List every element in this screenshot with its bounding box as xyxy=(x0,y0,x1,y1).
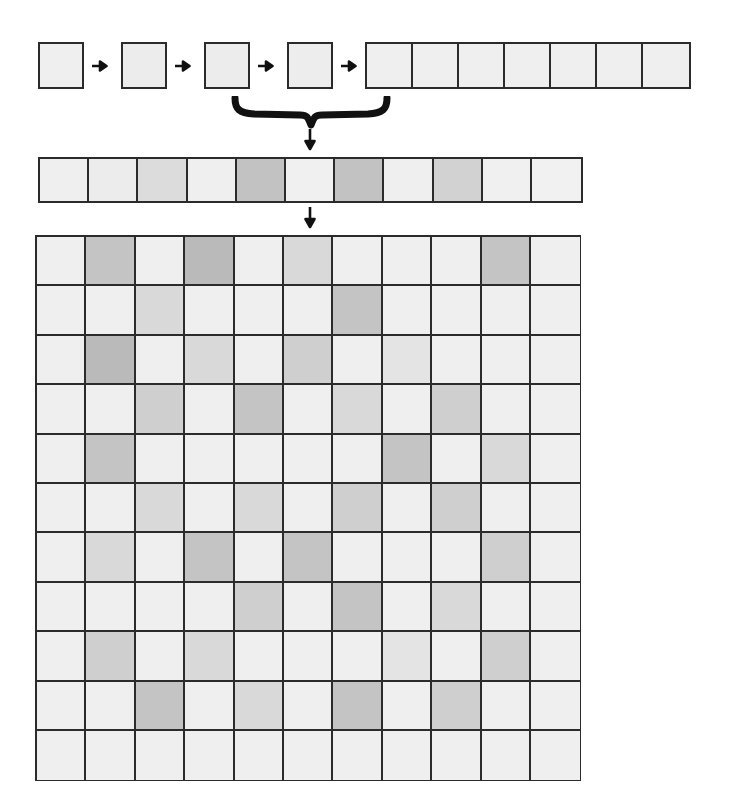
grid-cell xyxy=(185,286,234,335)
grid-cell xyxy=(531,435,580,484)
grid-cell xyxy=(235,632,284,681)
grid-cell xyxy=(86,286,135,335)
grid-cell xyxy=(37,533,86,582)
grid-cell xyxy=(284,336,333,385)
grid-cell xyxy=(383,435,432,484)
strip7-cell xyxy=(643,44,689,87)
grid-cell xyxy=(333,583,382,632)
grid-cell xyxy=(482,435,531,484)
grid-cell xyxy=(383,336,432,385)
arrow-right-icon-3 xyxy=(258,59,274,73)
grid-cell xyxy=(284,237,333,286)
grid-cell xyxy=(432,484,481,533)
arrow-right-icon-2 xyxy=(175,59,191,73)
strip7-cell xyxy=(551,44,597,87)
grid-cell xyxy=(235,286,284,335)
grid-cell xyxy=(333,484,382,533)
attention-grid xyxy=(35,235,581,781)
grid-cell xyxy=(383,237,432,286)
grid-cell xyxy=(531,237,580,286)
grid-cell xyxy=(136,385,185,434)
grid-cell xyxy=(136,336,185,385)
grid-cell xyxy=(531,632,580,681)
grid-cell xyxy=(136,237,185,286)
arrow-down-icon-2 xyxy=(303,207,317,229)
grid-cell xyxy=(37,632,86,681)
grid-cell xyxy=(235,533,284,582)
grid-cell xyxy=(383,632,432,681)
strip-cell xyxy=(384,159,433,201)
grid-cell xyxy=(432,533,481,582)
grid-cell xyxy=(531,731,580,780)
grid-cell xyxy=(333,336,382,385)
grid-cell xyxy=(86,385,135,434)
grid-cell xyxy=(333,286,382,335)
grid-cell xyxy=(284,682,333,731)
grid-cell xyxy=(432,682,481,731)
grid-cell xyxy=(86,632,135,681)
grid-cell xyxy=(185,632,234,681)
grid-cell xyxy=(185,237,234,286)
grid-cell xyxy=(531,533,580,582)
grid-cell xyxy=(531,484,580,533)
strip-cell xyxy=(286,159,335,201)
grid-cell xyxy=(37,336,86,385)
diagram-canvas xyxy=(0,0,745,799)
grid-cell xyxy=(333,632,382,681)
grid-cell xyxy=(185,731,234,780)
tile-run-of-seven xyxy=(365,42,691,89)
grid-cell xyxy=(284,731,333,780)
grid-cell xyxy=(531,682,580,731)
grid-cell xyxy=(531,583,580,632)
strip-cell xyxy=(89,159,138,201)
grid-cell xyxy=(432,435,481,484)
grid-cell xyxy=(86,731,135,780)
grid-cell xyxy=(37,286,86,335)
grid-cell xyxy=(482,632,531,681)
grid-cell xyxy=(185,435,234,484)
grid-cell xyxy=(482,237,531,286)
grid-cell xyxy=(531,385,580,434)
strip-cell xyxy=(138,159,187,201)
grid-cell xyxy=(185,583,234,632)
grid-cell xyxy=(136,533,185,582)
grid-cell xyxy=(136,583,185,632)
grid-cell xyxy=(235,682,284,731)
grid-cell xyxy=(136,435,185,484)
grid-cell xyxy=(482,286,531,335)
grid-cell xyxy=(185,484,234,533)
grid-cell xyxy=(284,583,333,632)
grid-cell xyxy=(185,533,234,582)
square-4 xyxy=(287,42,333,89)
grid-cell xyxy=(235,731,284,780)
grid-cell xyxy=(432,731,481,780)
strip7-cell xyxy=(505,44,551,87)
flattened-sequence-strip xyxy=(38,157,583,203)
square-2 xyxy=(121,42,167,89)
grid-cell xyxy=(383,682,432,731)
grid-cell xyxy=(284,435,333,484)
grid-cell xyxy=(235,484,284,533)
strip-cell xyxy=(483,159,532,201)
strip7-cell xyxy=(413,44,459,87)
strip7-cell xyxy=(597,44,643,87)
grid-cell xyxy=(86,435,135,484)
grid-cell xyxy=(284,385,333,434)
strip-cell xyxy=(188,159,237,201)
grid-cell xyxy=(482,731,531,780)
strip7-cell xyxy=(367,44,413,87)
grid-cell xyxy=(432,286,481,335)
grid-cell xyxy=(482,682,531,731)
grid-cell xyxy=(383,484,432,533)
arrow-right-icon-4 xyxy=(341,59,357,73)
square-3 xyxy=(204,42,250,89)
grid-cell xyxy=(37,435,86,484)
grid-cell xyxy=(284,533,333,582)
arrow-right-icon-1 xyxy=(92,59,108,73)
grid-cell xyxy=(86,237,135,286)
strip-cell xyxy=(40,159,89,201)
grid-cell xyxy=(383,286,432,335)
grid-cell xyxy=(333,731,382,780)
strip-cell xyxy=(335,159,384,201)
grid-cell xyxy=(432,632,481,681)
